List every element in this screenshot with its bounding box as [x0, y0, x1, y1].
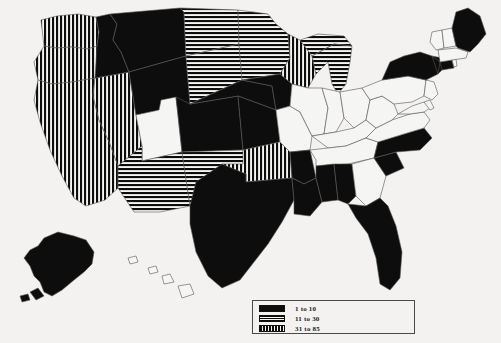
state-NJ — [424, 80, 438, 100]
legend-item-horizontal: 11 to 30 — [259, 314, 414, 323]
state-WA — [41, 14, 99, 49]
state-MN — [238, 10, 290, 80]
state-OR — [34, 46, 99, 84]
legend-item-solid: 1 to 10 — [259, 304, 414, 313]
legend-item-vertical: 31 to 85 — [259, 324, 414, 333]
state-AK — [20, 232, 94, 302]
map-figure: 1 to 10 11 to 30 31 to 85 — [0, 0, 501, 343]
legend-label-vertical: 31 to 85 — [295, 325, 320, 333]
state-HI — [128, 256, 194, 298]
us-choropleth-map — [0, 0, 501, 343]
state-NY — [382, 52, 446, 80]
legend-label-solid: 1 to 10 — [295, 305, 316, 313]
legend-swatch-horizontal-icon — [259, 315, 285, 322]
state-CO — [176, 96, 243, 152]
state-ME — [452, 8, 486, 52]
map-legend: 1 to 10 11 to 30 31 to 85 — [252, 300, 415, 334]
legend-swatch-solid-icon — [259, 305, 285, 312]
legend-swatch-vertical-icon — [259, 325, 285, 332]
state-TX — [190, 164, 294, 288]
state-FL — [348, 198, 402, 290]
state-VT — [430, 30, 444, 50]
legend-label-horizontal: 11 to 30 — [295, 315, 320, 323]
